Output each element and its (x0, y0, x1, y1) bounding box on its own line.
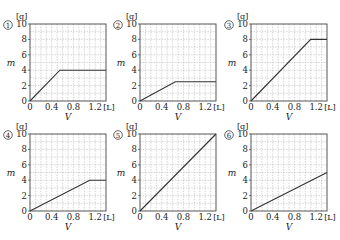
y-tick-label: 6 (22, 160, 27, 170)
y-axis-label: m (7, 168, 16, 178)
panel-number: 1 (6, 22, 10, 30)
y-tick-label: 8 (132, 144, 137, 154)
y-tick-label: 8 (132, 34, 137, 44)
y-axis-label: m (7, 58, 16, 68)
x-tick-label: 0 (137, 212, 142, 222)
y-tick-label: 8 (22, 34, 27, 44)
y-tick-label: 2 (22, 81, 27, 91)
y-unit-label: [g] (126, 122, 137, 131)
chart-svg: 024681000.40.81.2[L][g]Vm5 (110, 120, 230, 232)
y-unit-label: [g] (16, 122, 27, 131)
x-tick-label: 0.8 (67, 102, 81, 112)
y-tick-label: 2 (22, 191, 27, 201)
y-tick-label: 4 (132, 175, 137, 185)
y-unit-label: [g] (237, 122, 248, 131)
y-tick-label: 6 (243, 160, 248, 170)
panel-number: 5 (116, 132, 120, 140)
y-tick-label: 6 (22, 50, 27, 60)
y-axis-label: m (228, 58, 237, 68)
chart-svg: 024681000.40.81.2[L][g]Vm4 (0, 120, 120, 232)
y-tick-label: 6 (132, 50, 137, 60)
chart-svg: 024681000.40.81.2[L][g]Vm2 (110, 10, 230, 122)
x-tick-label: 0.4 (266, 102, 280, 112)
panel-number: 3 (227, 22, 231, 30)
chart-svg: 024681000.40.81.2[L][g]Vm1 (0, 10, 120, 122)
y-tick-label: 2 (243, 191, 248, 201)
chart-panel-4: 024681000.40.81.2[L][g]Vm4 (0, 120, 112, 232)
y-tick-label: 0 (243, 206, 248, 216)
chart-panel-3: 024681000.40.81.2[L][g]Vm3 (221, 10, 333, 122)
chart-svg: 024681000.40.81.2[L][g]Vm6 (221, 120, 340, 232)
y-unit-label: [g] (126, 12, 137, 21)
y-tick-label: 6 (243, 50, 248, 60)
x-tick-label: 0 (248, 212, 253, 222)
y-tick-label: 0 (22, 96, 27, 106)
x-axis-label: V (65, 222, 73, 232)
y-axis-label: m (117, 58, 126, 68)
x-unit-label: [L] (324, 103, 336, 112)
x-unit-label: [L] (324, 213, 336, 222)
x-tick-label: 1.2 (88, 102, 102, 112)
chart-svg: 024681000.40.81.2[L][g]Vm3 (221, 10, 340, 122)
y-tick-label: 8 (243, 34, 248, 44)
x-tick-label: 0.4 (45, 212, 59, 222)
x-tick-label: 0.4 (155, 102, 169, 112)
y-tick-label: 2 (132, 81, 137, 91)
y-axis-label: m (117, 168, 126, 178)
y-tick-label: 4 (243, 175, 248, 185)
x-tick-label: 1.2 (309, 102, 323, 112)
x-tick-label: 0.4 (155, 212, 169, 222)
x-tick-label: 0 (27, 102, 32, 112)
y-tick-label: 0 (132, 206, 137, 216)
y-tick-label: 0 (243, 96, 248, 106)
panel-number: 4 (6, 132, 11, 140)
y-tick-label: 4 (132, 65, 137, 75)
x-axis-label: V (286, 222, 294, 232)
x-tick-label: 0 (137, 102, 142, 112)
chart-panel-5: 024681000.40.81.2[L][g]Vm5 (110, 120, 222, 232)
x-tick-label: 0.4 (45, 102, 59, 112)
y-tick-label: 4 (22, 65, 27, 75)
chart-panel-1: 024681000.40.81.2[L][g]Vm1 (0, 10, 112, 122)
x-axis-label: V (175, 222, 183, 232)
x-tick-label: 0.8 (177, 212, 191, 222)
y-tick-label: 4 (243, 65, 248, 75)
x-tick-label: 1.2 (198, 212, 212, 222)
y-tick-label: 2 (132, 191, 137, 201)
x-tick-label: 0.8 (288, 102, 302, 112)
cropped-question-text (0, 0, 340, 4)
gridlines (140, 24, 216, 101)
y-unit-label: [g] (237, 12, 248, 21)
x-tick-label: 0.4 (266, 212, 280, 222)
y-tick-label: 6 (132, 160, 137, 170)
y-axis-label: m (228, 168, 237, 178)
y-unit-label: [g] (16, 12, 27, 21)
x-tick-label: 0 (27, 212, 32, 222)
y-tick-label: 0 (22, 206, 27, 216)
panel-number: 2 (116, 22, 120, 30)
gridlines (30, 134, 106, 211)
panel-number: 6 (227, 132, 232, 140)
x-tick-label: 0.8 (177, 102, 191, 112)
x-tick-label: 0.8 (288, 212, 302, 222)
y-tick-label: 8 (243, 144, 248, 154)
x-tick-label: 0 (248, 102, 253, 112)
x-tick-label: 1.2 (198, 102, 212, 112)
y-tick-label: 2 (243, 81, 248, 91)
x-tick-label: 0.8 (67, 212, 81, 222)
y-tick-label: 4 (22, 175, 27, 185)
x-tick-label: 1.2 (88, 212, 102, 222)
y-tick-label: 0 (132, 96, 137, 106)
x-tick-label: 1.2 (309, 212, 323, 222)
chart-panel-6: 024681000.40.81.2[L][g]Vm6 (221, 120, 333, 232)
chart-panel-2: 024681000.40.81.2[L][g]Vm2 (110, 10, 222, 122)
gridlines (251, 134, 327, 211)
y-tick-label: 8 (22, 144, 27, 154)
